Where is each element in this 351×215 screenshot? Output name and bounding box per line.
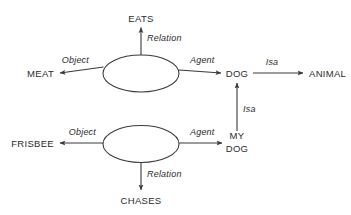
node-label-eats: EATS bbox=[128, 13, 153, 24]
node-label-animal: ANIMAL bbox=[309, 68, 346, 79]
node-label-frisbee: FRISBEE bbox=[11, 138, 54, 149]
diagram-canvas: EATS MEAT DOG ANIMAL FRISBEE MY DOG CHAS… bbox=[0, 0, 351, 215]
arc-label-object-frisbee: Object bbox=[69, 127, 97, 137]
proposition-node-1 bbox=[103, 55, 179, 92]
arc-label-relation-chases: Relation bbox=[147, 169, 182, 179]
semantic-network-diagram: EATS MEAT DOG ANIMAL FRISBEE MY DOG CHAS… bbox=[0, 0, 351, 215]
proposition-node-2 bbox=[103, 126, 179, 163]
node-label-meat: MEAT bbox=[27, 68, 54, 79]
arc-label-isa-mydog-dog: Isa bbox=[243, 104, 256, 114]
node-label-chases: CHASES bbox=[121, 195, 162, 206]
node-label-mydog-line1: MY bbox=[230, 130, 245, 141]
arc-label-object-meat: Object bbox=[62, 55, 90, 65]
node-label-dog: DOG bbox=[226, 68, 249, 79]
arc-label-isa-dog-animal: Isa bbox=[266, 57, 279, 67]
arc-label-agent-dog: Agent bbox=[189, 55, 215, 65]
arc-label-relation-eats: Relation bbox=[147, 33, 182, 43]
edge-agent-dog bbox=[179, 70, 221, 73]
edge-object-meat bbox=[60, 67, 104, 73]
node-label-mydog-line2: DOG bbox=[226, 143, 249, 154]
arc-label-agent-mydog: Agent bbox=[189, 127, 215, 137]
